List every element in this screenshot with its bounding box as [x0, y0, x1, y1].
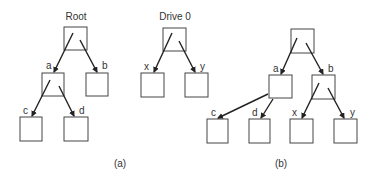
merged-node-b-label: b — [328, 63, 334, 74]
merged-root-node — [291, 29, 314, 53]
node-a-label: a — [46, 60, 52, 71]
node-d-label: d — [79, 105, 85, 116]
merged-node-y — [334, 119, 357, 143]
merged-node-y-label: y — [350, 107, 355, 118]
merged-node-d-label: d — [252, 107, 258, 118]
node-a — [42, 73, 64, 96]
node-y — [185, 73, 208, 97]
merged-node-x — [290, 119, 313, 143]
merged-node-a-label: a — [273, 63, 279, 74]
drive0-tree-title: Drive 0 — [159, 11, 191, 22]
caption-a: (a) — [114, 158, 126, 169]
merged-node-d — [249, 119, 270, 143]
merged-node-x-label: x — [292, 107, 297, 118]
edge-merged-b-y — [328, 88, 344, 118]
node-c — [20, 117, 42, 141]
node-c-label: c — [23, 105, 28, 116]
node-b — [86, 73, 108, 96]
merged-node-c-label: c — [211, 107, 216, 118]
node-x-label: x — [144, 61, 149, 72]
node-d — [64, 117, 88, 141]
root-tree-title: Root — [65, 11, 86, 22]
merged-node-c — [207, 119, 228, 143]
merged-node-a — [269, 75, 292, 98]
edge-root-b — [80, 40, 97, 72]
edge-a-d — [59, 86, 74, 116]
edge-a-c — [32, 80, 50, 116]
caption-b: (b) — [275, 158, 287, 169]
edge-merged-a-d — [261, 99, 273, 118]
node-y-label: y — [200, 61, 205, 72]
node-x — [141, 73, 164, 97]
root-tree: Root a b c d — [20, 11, 108, 141]
directory-tree-diagram: Root a b c d Drive 0 x y (a) a b c — [0, 0, 374, 178]
node-b-label: b — [102, 60, 108, 71]
edge-drive0-y — [179, 41, 195, 72]
edge-merged-b-x — [302, 83, 319, 118]
edge-merged-a-c — [218, 94, 268, 118]
drive0-tree: Drive 0 x y — [141, 11, 208, 97]
edge-merged-root-a — [281, 38, 297, 74]
merged-tree: a b c d x y — [207, 29, 357, 143]
